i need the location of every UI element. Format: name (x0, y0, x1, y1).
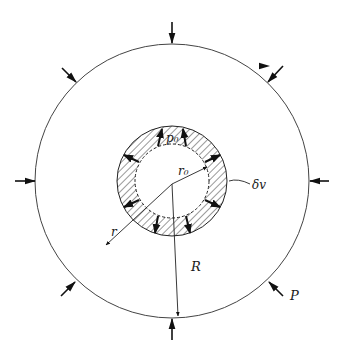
label-inner-pressure: p₀ (166, 131, 179, 145)
label-radial-coordinate: r (111, 225, 118, 239)
label-outer-radius: R (190, 259, 201, 274)
outer-radius-line (172, 184, 178, 316)
label-virtual-displacement: δv (252, 178, 266, 192)
diagram-canvas: p₀ r₀ δv r R P (0, 0, 346, 351)
label-external-load: P (289, 288, 299, 303)
ring-inner-edge (135, 144, 209, 218)
external-load-arrows (15, 22, 329, 340)
label-inner-radius: r₀ (178, 164, 189, 178)
outer-boundary-circle (35, 44, 309, 318)
virtual-displacement-leader (229, 180, 250, 184)
